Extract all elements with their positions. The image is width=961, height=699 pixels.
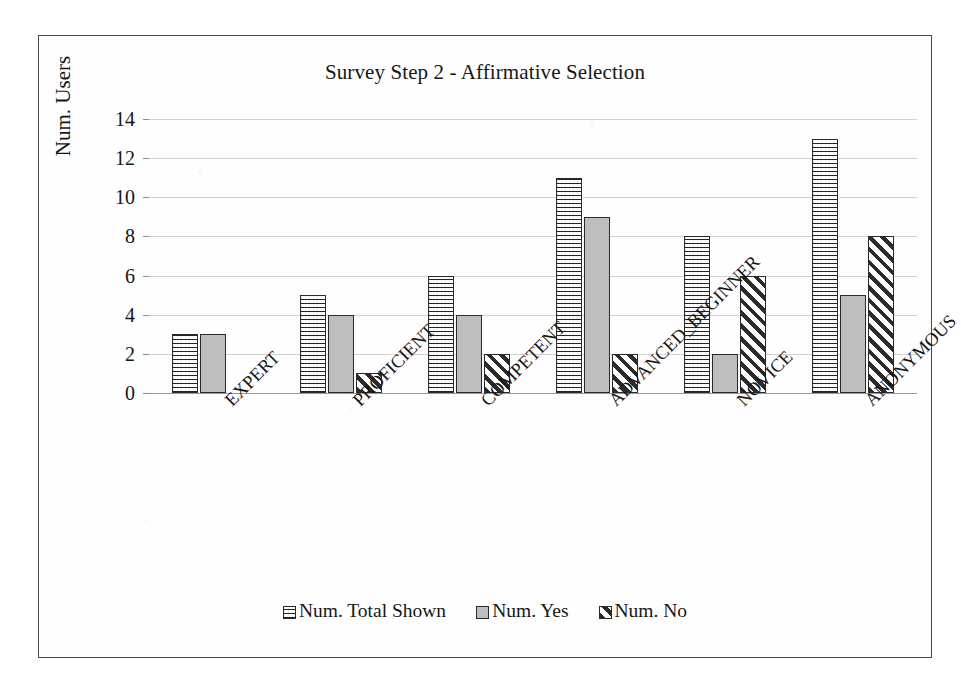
y-tick-label: 2	[125, 342, 135, 365]
x-tick-label: PROFICIENT	[349, 396, 364, 411]
legend-item: Num. Total Shown	[283, 600, 446, 622]
bar	[712, 354, 738, 393]
bar	[840, 295, 866, 393]
x-tick-label: EXPERT	[221, 396, 236, 411]
x-tick-label: COMPETENT	[477, 396, 492, 411]
legend-swatch-icon	[476, 606, 489, 619]
y-tick-label: 6	[125, 264, 135, 287]
bar	[328, 315, 354, 393]
bar	[584, 217, 610, 393]
y-tick-label: 4	[125, 303, 135, 326]
y-tick-mark	[143, 393, 149, 394]
legend-swatch-icon	[599, 606, 612, 619]
bar	[172, 334, 198, 393]
x-axis-labels: EXPERTPROFICIENTCOMPETENTADVANCED_BEGINN…	[149, 396, 917, 546]
chart-title: Survey Step 2 - Affirmative Selection	[39, 60, 931, 85]
legend-label: Num. No	[615, 600, 688, 622]
bar	[812, 139, 838, 393]
y-tick-label: 10	[115, 186, 135, 209]
legend-label: Num. Yes	[492, 600, 568, 622]
bar	[556, 178, 582, 393]
x-tick-label: ADVANCED_BEGINNER	[605, 396, 620, 411]
y-tick-label: 8	[125, 225, 135, 248]
chart-figure-frame: Survey Step 2 - Affirmative Selection Nu…	[38, 35, 932, 658]
y-axis-title: Num. Users	[51, 26, 76, 186]
bar	[200, 334, 226, 393]
legend-swatch-icon	[283, 606, 296, 619]
y-tick-label: 14	[115, 108, 135, 131]
y-tick-label: 12	[115, 147, 135, 170]
bar	[300, 295, 326, 393]
axis-baseline	[149, 393, 917, 394]
x-tick-label: ANONYMOUS	[861, 396, 876, 411]
x-tick-label: NOVICE	[733, 396, 748, 411]
chart-legend: Num. Total ShownNum. YesNum. No	[39, 600, 931, 622]
y-tick-label: 0	[125, 382, 135, 405]
legend-item: Num. No	[599, 600, 688, 622]
bar	[456, 315, 482, 393]
legend-item: Num. Yes	[476, 600, 568, 622]
legend-label: Num. Total Shown	[299, 600, 446, 622]
